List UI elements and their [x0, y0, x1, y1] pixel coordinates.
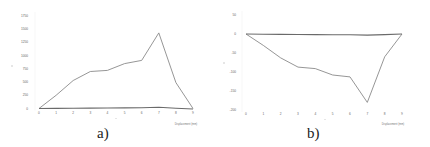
y-tick-label: -200 — [230, 108, 237, 112]
series-line-2 — [246, 34, 402, 35]
chart-b-panel: 500-50-100-150-2000123456789Displacement… — [215, 0, 430, 147]
x-tick-label: 1 — [55, 111, 57, 115]
x-tick-label: 9 — [192, 111, 194, 115]
y-tick-label: 0 — [26, 107, 28, 111]
x-tick-label: 3 — [297, 112, 299, 116]
series-line-2 — [39, 107, 193, 109]
series-line-1 — [246, 34, 402, 102]
y-tick-label: -50 — [231, 51, 236, 55]
series-line-1 — [39, 33, 193, 109]
x-tick-label: 2 — [280, 112, 282, 116]
x-unit-label: Displacement (mm) — [382, 122, 405, 126]
x-unit-label: Displacement (mm) — [175, 122, 198, 126]
x-tick-label: 4 — [314, 112, 316, 116]
y-tick-label: 1750 — [21, 14, 28, 18]
x-tick-label: 5 — [332, 112, 334, 116]
y-tick-label: 1250 — [21, 40, 28, 44]
y-tick-label: 500 — [23, 80, 29, 84]
x-tick-label: 8 — [175, 111, 177, 115]
x-tick-label: 1 — [262, 112, 264, 116]
x-tick-label: 7 — [366, 112, 368, 116]
x-tick-label: 3 — [89, 111, 91, 115]
x-tick-label: 6 — [349, 112, 351, 116]
x-tick-label: 0 — [38, 111, 40, 115]
x-tick-label: 9 — [401, 112, 403, 116]
y-tick-label: 1000 — [21, 54, 28, 58]
chart-b-caption: b) — [307, 125, 320, 142]
x-tick-label: 0 — [245, 112, 247, 116]
x-tick-label: 4 — [107, 111, 109, 115]
x-tick-label: 2 — [72, 111, 74, 115]
x-tick-label: 5 — [124, 111, 126, 115]
x-tick-label: 8 — [384, 112, 386, 116]
y-tick-label: -100 — [230, 70, 237, 74]
x-tick-label: 6 — [141, 111, 143, 115]
y-tick-label: 750 — [23, 67, 29, 71]
chart-a-panel: 025050075010001250150017500123456789Disp… — [0, 0, 215, 147]
x-tick-label: 7 — [158, 111, 160, 115]
y-tick-label: 0 — [234, 32, 236, 36]
y-tick-label: 1500 — [21, 27, 28, 31]
y-tick-label: 250 — [23, 93, 29, 97]
y-tick-label: 50 — [232, 13, 236, 17]
y-tick-label: -150 — [230, 89, 237, 93]
chart-b: 500-50-100-150-2000123456789Displacement… — [215, 0, 430, 147]
chart-a-caption: a) — [97, 125, 109, 142]
